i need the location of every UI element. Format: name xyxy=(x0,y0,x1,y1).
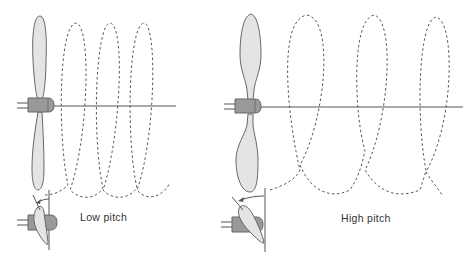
high-pitch-angle-arrow xyxy=(241,196,264,200)
low-pitch-label: Low pitch xyxy=(80,211,127,223)
high-pitch-hub xyxy=(235,99,261,113)
low-pitch-side-view xyxy=(17,190,57,250)
high-pitch-upper-blade xyxy=(240,14,261,100)
low-pitch-upper-blade xyxy=(33,16,47,100)
propeller-pitch-diagram xyxy=(0,0,476,267)
high-pitch-helix-path xyxy=(270,15,449,195)
high-pitch-label: High pitch xyxy=(341,212,391,224)
low-pitch-helix-path xyxy=(45,23,170,197)
high-pitch-side-view xyxy=(221,188,265,252)
low-pitch-hub xyxy=(28,98,54,112)
low-pitch-lower-blade xyxy=(32,112,44,190)
high-pitch-lower-blade xyxy=(236,114,258,192)
high-pitch-propeller xyxy=(224,14,463,192)
